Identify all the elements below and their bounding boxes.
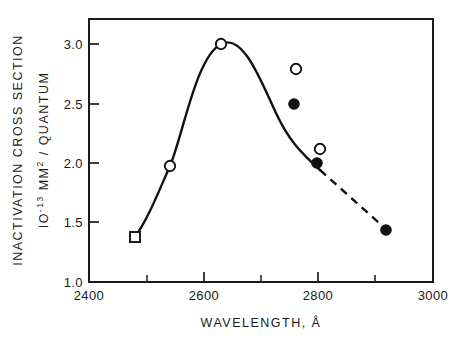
data-point-filled-circle: [289, 99, 299, 109]
data-point-filled-circle: [312, 158, 322, 168]
svg-text:IO-13 MM2 / QUANTUM: IO-13 MM2 / QUANTUM: [35, 72, 51, 229]
x-axis-minor-ticks: [147, 275, 375, 282]
y-tick-label-2: 1.5: [64, 215, 83, 230]
x-axis-title: WAVELENGTH, Å: [201, 315, 322, 330]
x-tick-label-3: 2800: [303, 288, 334, 303]
data-point-open-circle: [291, 64, 301, 74]
y-axis-title-line2: IO-13 MM2 / QUANTUM: [35, 72, 51, 229]
x-tick-label-2: 2600: [189, 288, 220, 303]
y-axis-ticks: [89, 44, 99, 282]
y-axis-unit-base: IO: [37, 212, 51, 228]
data-point-open-circle: [216, 39, 226, 49]
y-tick-label-4: 2.5: [64, 97, 83, 112]
data-point-open-circle: [165, 161, 175, 171]
y-axis-title-line1: INACTIVATION CROSS SECTION: [11, 34, 25, 266]
data-point-open-square: [130, 232, 140, 242]
y-axis-unit-exponent: -13: [35, 195, 45, 212]
x-tick-label-1: 2400: [74, 288, 105, 303]
x-tick-label-4: 3000: [418, 288, 449, 303]
inactivation-cross-section-figure: 1.0 1.5 2.0 2.5 3.0 2400 2600 2800 3000 …: [0, 0, 467, 339]
data-point-filled-circle: [381, 225, 391, 235]
y-tick-label-3: 2.0: [64, 156, 83, 171]
chart-canvas: 1.0 1.5 2.0 2.5 3.0 2400 2600 2800 3000 …: [0, 0, 467, 339]
y-axis-unit-tail: / QUANTUM: [37, 72, 51, 161]
y-tick-label-5: 3.0: [64, 37, 83, 52]
y-axis-unit-rest: MM: [37, 167, 51, 196]
data-point-open-circle: [315, 144, 325, 154]
fitted-curve-dashed: [320, 170, 387, 230]
